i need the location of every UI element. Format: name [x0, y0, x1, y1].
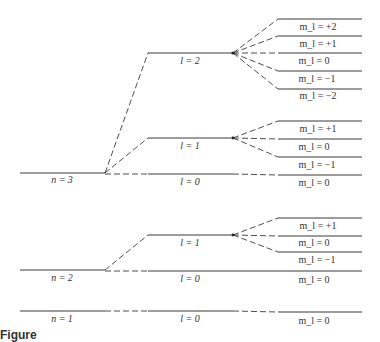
- n2-l1-ml-1-label: m_l = −1: [299, 254, 336, 265]
- figure-caption: Figure: [0, 328, 37, 342]
- n1-l0-ml0-label: m_l = 0: [298, 315, 329, 326]
- n3-l0-ml0-label: m_l = 0: [298, 177, 329, 188]
- n3-l2-label: l = 2: [180, 55, 200, 66]
- l2-to-ml-2: [233, 53, 278, 89]
- n3-l2-ml-1-label: m_l = −1: [299, 73, 336, 84]
- n2-l1-split-node: [232, 234, 235, 237]
- l2-to-ml+2: [233, 19, 278, 53]
- n3-l2-ml-2-label: m_l = −2: [300, 90, 337, 101]
- n2-l1-to-ml+1: [233, 218, 278, 235]
- n2-group: n = 2 l = 1 m_l = +1 m_l = 0 m_l = −1 l …: [20, 218, 362, 285]
- n3-l2-ml+2-label: m_l = +2: [300, 21, 337, 32]
- n1-l0-label: l = 0: [180, 313, 200, 324]
- n3-l1-ml0-label: m_l = 0: [298, 141, 329, 152]
- l1-to-ml+1: [233, 121, 278, 138]
- n2-l1-to-ml-1: [233, 235, 278, 252]
- n2-l0-ml0-label: m_l = 0: [298, 274, 329, 285]
- l2-split-node: [231, 51, 234, 54]
- n3-l0-to-ml0: [233, 174, 278, 175]
- n2-l1-label: l = 1: [180, 237, 200, 248]
- n2-l0-label: l = 0: [180, 273, 200, 284]
- n3-label: n = 3: [51, 174, 73, 185]
- n3-l1-ml-1-label: m_l = −1: [299, 159, 336, 170]
- n2-l1-ml+1-label: m_l = +1: [300, 220, 337, 231]
- l2-to-ml+1: [233, 36, 278, 53]
- n3-l1-ml+1-label: m_l = +1: [300, 123, 337, 134]
- n3-l2-ml0-label: m_l = 0: [298, 55, 329, 66]
- n2-label: n = 2: [51, 272, 73, 283]
- n2-to-l1-connector: [105, 235, 148, 270]
- l1-split-node: [232, 137, 235, 140]
- n3-l2-ml+1-label: m_l = +1: [300, 38, 337, 49]
- n3-group: n = 3 l = 2 m_l = +2 m_l = +1 m_l = 0 m_…: [20, 19, 362, 188]
- n1-group: n = 1 l = 0 m_l = 0: [20, 311, 362, 326]
- n2-l1-ml0-label: m_l = 0: [298, 237, 329, 248]
- l2-to-ml-1: [233, 53, 278, 71]
- n2-l1-to-ml0: [233, 235, 278, 236]
- l1-to-ml-1: [233, 138, 278, 157]
- l1-to-ml0: [233, 138, 278, 139]
- n1-l0-to-ml0: [233, 311, 278, 312]
- n3-l1-label: l = 1: [180, 140, 200, 151]
- n1-label: n = 1: [51, 313, 73, 324]
- n3-l0-label: l = 0: [180, 176, 200, 187]
